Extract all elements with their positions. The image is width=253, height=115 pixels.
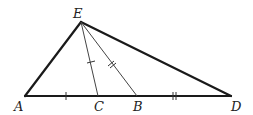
tick-mark-EC: [87, 61, 95, 63]
point-label-A: A: [13, 99, 23, 114]
point-label-E: E: [72, 6, 83, 21]
segment-AE: [25, 22, 81, 96]
segment-ED: [81, 22, 231, 96]
geometry-diagram: E A C B D: [0, 0, 253, 115]
point-label-B: B: [132, 99, 143, 114]
point-label-C: C: [94, 99, 104, 114]
point-label-D: D: [230, 99, 242, 114]
